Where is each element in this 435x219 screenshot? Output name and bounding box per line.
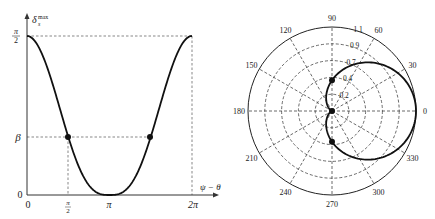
ring-label: 1.1 bbox=[353, 25, 363, 34]
angle-label: 0 bbox=[423, 107, 427, 116]
grid-spoke bbox=[259, 111, 332, 153]
x-axis-label: ψ − θ bbox=[200, 182, 221, 192]
y-tick-zero: 0 bbox=[18, 189, 23, 200]
x-axis-arrow-icon bbox=[213, 193, 219, 198]
angle-label: 90 bbox=[328, 14, 336, 23]
x-tick-2pi: 2π bbox=[188, 199, 199, 210]
angle-label: 60 bbox=[375, 26, 383, 35]
marker-dot bbox=[329, 108, 335, 114]
y-tick-beta: β bbox=[14, 131, 21, 143]
x-tick-half-pi-den: 2 bbox=[66, 207, 70, 215]
angle-label: 120 bbox=[280, 26, 292, 35]
marker-dot bbox=[147, 134, 153, 140]
angle-label: 270 bbox=[326, 200, 338, 209]
ring-label: 0.4 bbox=[343, 74, 353, 83]
marker-dot bbox=[329, 77, 335, 83]
angle-label: 240 bbox=[280, 188, 292, 197]
grid-spoke bbox=[332, 111, 405, 153]
angle-label: 180 bbox=[233, 107, 245, 116]
angle-label: 30 bbox=[409, 61, 417, 70]
figure: δ s max π 2 β 0 0 π 2 π 2π ψ − θ 0306090… bbox=[0, 0, 435, 219]
curve bbox=[27, 36, 192, 195]
polar-chart: 03060901201501802102402703003300.20.40.7… bbox=[233, 14, 427, 209]
x-tick-zero: 0 bbox=[26, 199, 31, 210]
grid-spoke bbox=[332, 111, 374, 184]
angle-label: 300 bbox=[373, 188, 385, 197]
y-axis-arrow-icon bbox=[25, 13, 30, 19]
angle-label: 330 bbox=[407, 154, 419, 163]
x-tick-pi: π bbox=[106, 199, 112, 210]
y-axis-subscript: s bbox=[38, 21, 41, 27]
angle-label: 210 bbox=[245, 154, 257, 163]
x-tick-half-pi-num: π bbox=[66, 199, 70, 207]
y-tick-top-den: 2 bbox=[14, 36, 18, 45]
y-axis-label: δ bbox=[32, 14, 37, 25]
y-tick-top-num: π bbox=[14, 27, 19, 36]
y-axis-superscript: max bbox=[38, 14, 48, 20]
marker-dot bbox=[65, 134, 71, 140]
ring-label: 0.9 bbox=[350, 41, 360, 50]
ring-label: 0.2 bbox=[339, 91, 349, 100]
marker-dot bbox=[329, 139, 335, 145]
cartesian-chart: δ s max π 2 β 0 0 π 2 π 2π ψ − θ bbox=[12, 13, 221, 215]
angle-label: 150 bbox=[245, 61, 257, 70]
grid-spoke bbox=[259, 69, 332, 111]
